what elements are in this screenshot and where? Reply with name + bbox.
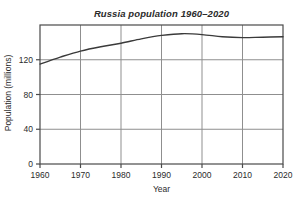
y-axis-label: Population (millions) <box>3 28 13 158</box>
x-tick-label: 2000 <box>193 170 212 180</box>
y-tick-label: 40 <box>24 124 34 134</box>
population-chart-figure: Russia population 1960–2020 196019701980… <box>0 0 304 206</box>
y-tick-label: 80 <box>24 90 34 100</box>
y-tick-label: 120 <box>19 55 33 65</box>
x-tick-label: 1980 <box>112 170 131 180</box>
x-tick-label: 1970 <box>71 170 90 180</box>
x-axis-label: Year <box>40 184 283 194</box>
x-tick-label: 1960 <box>31 170 50 180</box>
x-tick-label: 1990 <box>152 170 171 180</box>
x-tick-label: 2010 <box>233 170 252 180</box>
chart-title: Russia population 1960–2020 <box>40 8 283 19</box>
population-line-chart: 196019701980199020002010202004080120 <box>0 0 304 206</box>
y-tick-label: 0 <box>28 159 33 169</box>
x-tick-label: 2020 <box>274 170 293 180</box>
